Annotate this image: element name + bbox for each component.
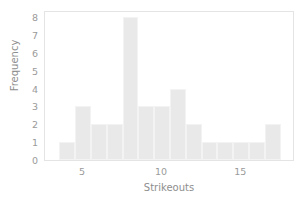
plot-area [44,11,294,161]
x-tick-label: 10 [141,166,181,177]
x-tick-label: 15 [220,166,260,177]
histogram-bar [265,124,281,160]
histogram-bar [170,89,186,160]
y-tick-label: 3 [4,102,38,112]
histogram-bar [59,142,75,160]
y-axis-tick-labels: 012345678 [0,11,38,161]
histogram-bar [91,124,107,160]
y-tick-label: 2 [4,120,38,130]
x-axis-tick-labels: 51015 [44,166,294,180]
histogram-bar [249,142,265,160]
histogram-bar [154,106,170,160]
histogram-bar [233,142,249,160]
histogram-bar [123,17,139,160]
y-tick-label: 7 [4,31,38,41]
histogram-bar [75,106,91,160]
y-tick-label: 4 [4,85,38,95]
y-tick-label: 0 [4,156,38,166]
histogram-bar [107,124,123,160]
x-tick-label: 5 [62,166,102,177]
histogram-figure: Frequency 012345678 51015 Strikeouts [0,0,304,217]
histogram-bar [186,124,202,160]
histogram-bar [138,106,154,160]
histogram-bar [202,142,218,160]
y-tick-label: 5 [4,67,38,77]
y-tick-label: 1 [4,138,38,148]
histogram-bar [217,142,233,160]
y-tick-label: 8 [4,13,38,23]
bars-container [45,12,293,160]
x-axis-label: Strikeouts [44,182,294,193]
y-tick-label: 6 [4,49,38,59]
